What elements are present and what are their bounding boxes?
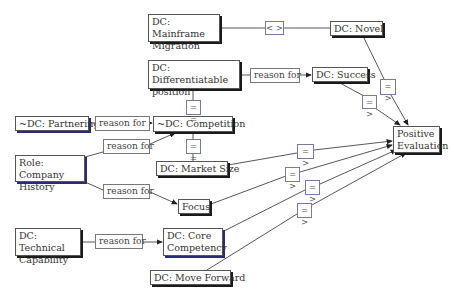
relation-implies-core[interactable]: = >	[305, 180, 320, 195]
node-core-competency[interactable]: DC: Core Competency	[163, 228, 223, 256]
node-move-forward[interactable]: DC: Move Forward	[150, 270, 231, 285]
edge-layer	[0, 0, 454, 305]
relation-not-equal[interactable]: < >	[265, 21, 284, 35]
node-partnering[interactable]: ~DC: Partnering	[15, 116, 89, 131]
node-focus[interactable]: Focus	[178, 199, 210, 214]
relation-reason-for-role-competition[interactable]: reason for	[103, 139, 150, 154]
relation-implies-focus[interactable]: = >	[285, 167, 300, 182]
relation-implies-success[interactable]: = >	[362, 95, 377, 109]
relation-equals-upper[interactable]: = =	[186, 100, 201, 115]
node-novel[interactable]: DC: Novel	[330, 21, 383, 36]
relation-reason-for-success[interactable]: reason for	[250, 68, 300, 83]
node-mainframe-migration[interactable]: DC: Mainframe Migration	[148, 14, 220, 42]
relation-reason-for-focus[interactable]: reason for	[103, 184, 150, 199]
node-positive-evaluation[interactable]: Positive Evaluation	[393, 126, 440, 153]
relation-implies-novel[interactable]: = >	[380, 79, 396, 95]
relation-implies-market-size[interactable]: = >	[297, 144, 314, 159]
relation-reason-for-partnering[interactable]: reason for	[95, 116, 150, 131]
relation-implies-move-forward[interactable]: = >	[297, 203, 312, 218]
relation-equals-lower[interactable]: = =	[186, 139, 201, 154]
node-role-company-history[interactable]: Role: Company History	[15, 155, 85, 182]
node-technical-capability[interactable]: DC: Technical Capability	[15, 228, 81, 256]
relation-reason-for-core[interactable]: reason for	[95, 234, 143, 249]
node-success[interactable]: DC: Success	[312, 67, 368, 82]
node-differentiatable-position[interactable]: DC: Differentiatable position	[148, 60, 240, 89]
